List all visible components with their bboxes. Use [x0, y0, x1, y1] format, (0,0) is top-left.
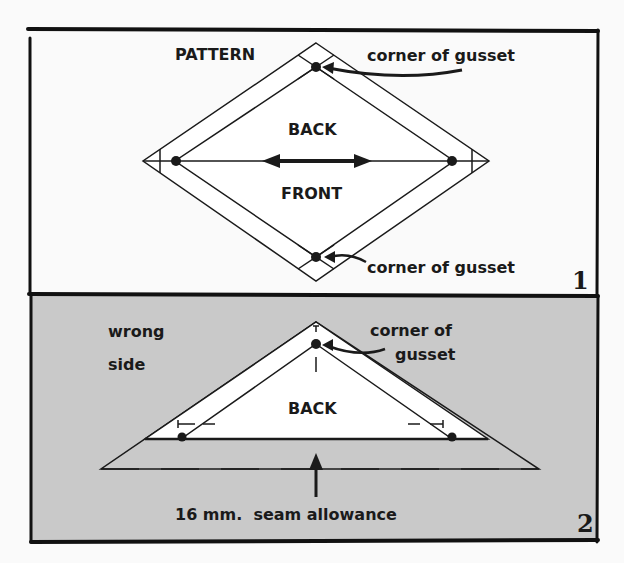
panel-number-2: 2 — [577, 509, 594, 538]
corner-dot-top — [311, 62, 321, 72]
corner-dot-bottom — [311, 252, 321, 262]
gusset-label-line1: corner of — [370, 321, 453, 340]
panel-number-1: 1 — [572, 266, 589, 295]
wrong-side-label-line2: side — [108, 355, 145, 374]
wrong-side-label-line1: wrong — [108, 322, 165, 341]
corner-dot-right — [448, 433, 457, 442]
bottom-gusset-label: corner of gusset — [367, 258, 515, 277]
panel-2: wrong side corner of gusset BACK 16 mm. … — [31, 296, 597, 541]
corner-dot-left — [171, 156, 181, 166]
corner-dot-left — [178, 433, 187, 442]
gusset-diagram: PATTERN corner of gusset BACK FRONT corn… — [0, 0, 624, 563]
back-label: BACK — [288, 399, 337, 418]
top-gusset-label: corner of gusset — [367, 46, 515, 65]
pattern-title: PATTERN — [175, 45, 255, 64]
corner-dot-right — [447, 156, 457, 166]
seam-allowance-label: 16 mm. seam allowance — [175, 505, 397, 524]
corner-dot-top — [311, 339, 321, 349]
gusset-label-line2: gusset — [395, 345, 456, 364]
panel-1: PATTERN corner of gusset BACK FRONT corn… — [30, 30, 597, 295]
front-label: FRONT — [281, 184, 342, 203]
back-label: BACK — [288, 120, 337, 139]
